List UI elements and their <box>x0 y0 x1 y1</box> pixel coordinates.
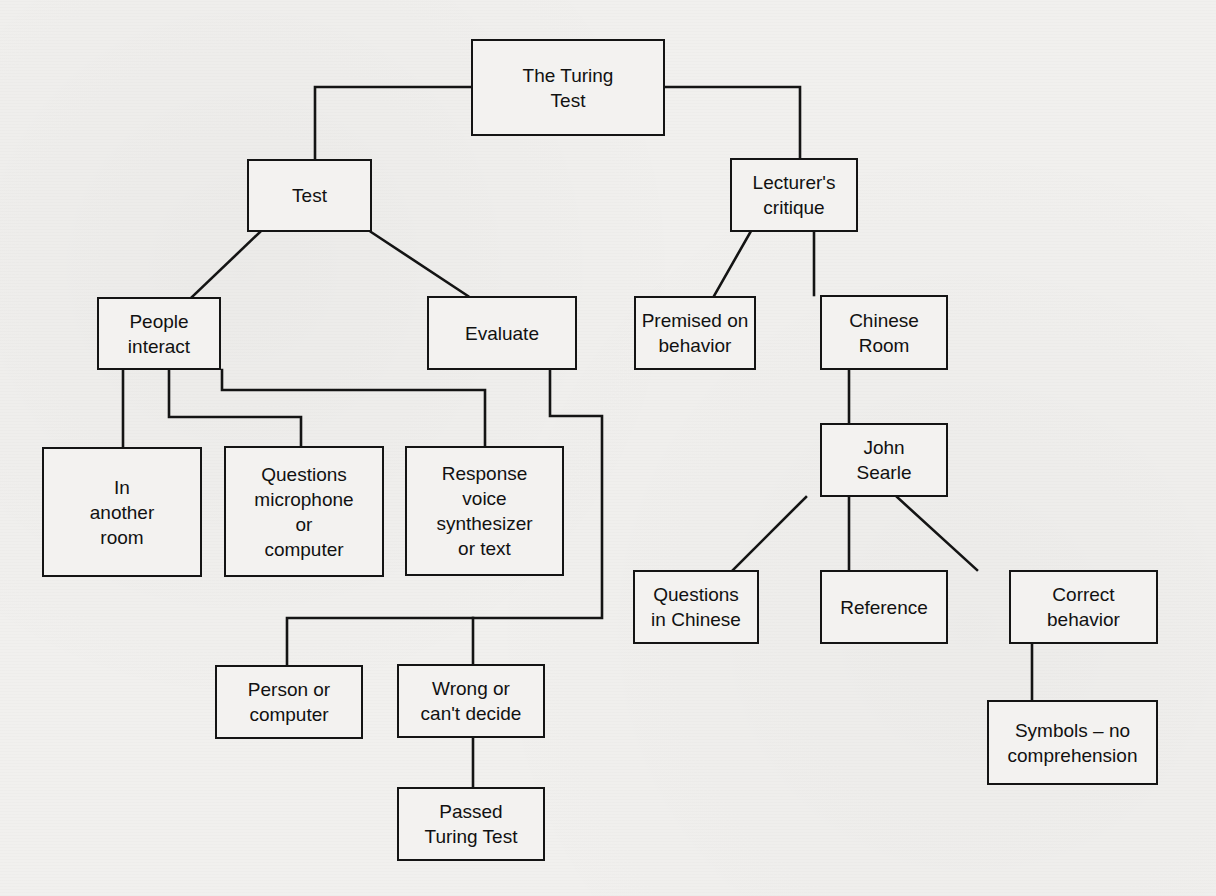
node-lecturers-critique: Lecturer's critique <box>730 158 858 232</box>
node-label: Chinese Room <box>849 308 919 358</box>
node-chinese-room: Chinese Room <box>820 295 948 370</box>
node-label: Lecturer's critique <box>753 170 836 220</box>
node-label: Symbols – no comprehension <box>1008 718 1138 768</box>
node-passed-turing-test: Passed Turing Test <box>397 787 545 861</box>
edge-root-test <box>315 87 471 159</box>
node-evaluate: Evaluate <box>427 296 577 370</box>
node-response-voice: Response voice synthesizer or text <box>405 446 564 576</box>
node-label: Passed Turing Test <box>425 799 518 849</box>
edge-test-evaluate <box>371 232 468 296</box>
edge-people-questions-mic <box>169 370 301 446</box>
node-label: Response voice synthesizer or text <box>436 461 532 561</box>
node-label: Reference <box>840 595 928 620</box>
node-label: Correct behavior <box>1047 582 1120 632</box>
node-correct-behavior: Correct behavior <box>1009 570 1158 644</box>
edge-searle-questions-chinese <box>733 497 806 570</box>
node-john-searle: John Searle <box>820 423 948 497</box>
node-label: People interact <box>128 309 190 359</box>
node-symbols-no-comprehension: Symbols – no comprehension <box>987 700 1158 785</box>
node-in-another-room: In another room <box>42 447 202 577</box>
edge-test-people <box>192 232 260 297</box>
node-the-turing-test: The Turing Test <box>471 39 665 136</box>
edge-searle-correct-behavior <box>897 497 977 570</box>
node-label: Evaluate <box>465 321 539 346</box>
node-premised-on-behavior: Premised on behavior <box>634 296 756 370</box>
node-label: Premised on behavior <box>642 308 749 358</box>
node-questions-in-chinese: Questions in Chinese <box>633 570 759 644</box>
edge-critique-premised <box>714 231 751 296</box>
node-reference: Reference <box>820 570 948 644</box>
node-label: In another room <box>90 475 154 550</box>
node-label: Questions in Chinese <box>651 582 741 632</box>
edge-people-response <box>222 370 485 446</box>
node-people-interact: People interact <box>97 297 221 370</box>
edge-root-critique <box>664 87 800 158</box>
node-person-or-computer: Person or computer <box>215 665 363 739</box>
node-label: Person or computer <box>248 677 330 727</box>
node-label: John Searle <box>857 435 912 485</box>
node-questions-microphone: Questions microphone or computer <box>224 446 384 577</box>
node-label: Questions microphone or computer <box>254 462 353 562</box>
node-label: Wrong or can't decide <box>421 676 522 726</box>
node-label: The Turing Test <box>523 63 614 113</box>
node-wrong-or-cant-decide: Wrong or can't decide <box>397 664 545 738</box>
node-test: Test <box>247 159 372 232</box>
node-label: Test <box>292 183 327 208</box>
